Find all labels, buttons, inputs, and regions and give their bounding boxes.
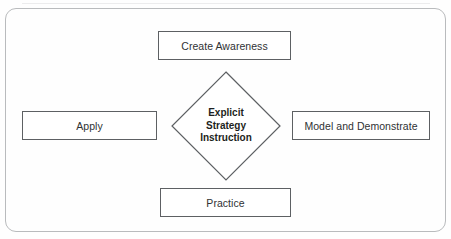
node-apply: Apply xyxy=(22,111,157,140)
scan-artifact-line xyxy=(22,3,430,4)
node-explicit-strategy-instruction: Explicit Strategy Instruction xyxy=(171,71,281,181)
node-create-awareness: Create Awareness xyxy=(158,31,291,60)
diamond-label-group: Explicit Strategy Instruction xyxy=(171,71,281,181)
diamond-label-line-1: Explicit xyxy=(208,107,244,120)
node-apply-label: Apply xyxy=(76,120,103,132)
node-model-and-demonstrate: Model and Demonstrate xyxy=(292,111,430,140)
diagram-canvas: Create Awareness Apply Model and Demonst… xyxy=(0,0,451,239)
node-model-and-demonstrate-label: Model and Demonstrate xyxy=(304,120,417,132)
diamond-label-line-3: Instruction xyxy=(200,132,252,145)
node-create-awareness-label: Create Awareness xyxy=(181,40,267,52)
node-practice: Practice xyxy=(160,188,291,217)
diamond-label-line-2: Strategy xyxy=(206,120,246,133)
node-practice-label: Practice xyxy=(206,197,244,209)
